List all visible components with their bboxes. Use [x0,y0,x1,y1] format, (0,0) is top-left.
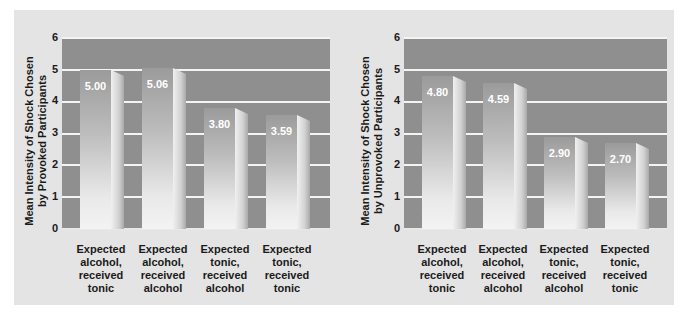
bar: 3.80 [204,108,248,229]
x-label-line: tonic, [256,256,318,269]
x-label-line: Expected [132,243,194,256]
y-tick: 1 [386,190,400,202]
x-label-line: alcohol, [472,256,534,269]
x-label-line: received [256,269,318,282]
x-label-line: received [594,269,656,282]
x-label-line: tonic, [533,256,595,269]
value-label: 2.70 [605,153,636,165]
value-label: 2.90 [544,147,575,159]
value-label: 4.80 [422,86,453,98]
y-axis-label: Mean Intensity of Shock Chosen by Unprov… [359,41,385,241]
gridline [404,37,667,39]
bar-side [235,108,248,229]
y-tick: 3 [44,126,58,138]
bar-side [111,70,124,229]
y-tick: 5 [386,63,400,75]
chart-panel-provoked: Mean Intensity of Shock Chosen by Provok… [14,10,344,305]
y-tick: 2 [386,158,400,170]
y-tick: 3 [386,126,400,138]
bar-side [514,83,527,229]
x-label-line: received [533,269,595,282]
x-label-line: alcohol [194,282,256,295]
x-label-line: Expected [194,243,256,256]
y-tick: 6 [386,31,400,43]
x-label-line: alcohol [472,282,534,295]
y-axis-label-line: Mean Intensity of Shock Chosen [359,41,372,241]
bar: 5.06 [142,68,186,229]
y-tick: 0 [44,222,58,234]
bar: 3.59 [266,115,310,229]
y-tick: 2 [44,158,58,170]
x-label-line: Expected [594,243,656,256]
gridline [62,37,330,39]
chart-panel-unprovoked: Mean Intensity of Shock Chosen by Unprov… [344,10,674,305]
gridline [404,69,667,71]
bar-side [173,68,186,229]
x-category-label: Expected alcohol, received alcohol [132,243,194,295]
y-axis-label-line: by Unprovoked Participants [372,41,385,241]
x-category-label: Expected tonic, received tonic [594,243,656,295]
x-label-line: alcohol, [70,256,132,269]
value-label: 4.59 [483,93,514,105]
bar-side [636,143,649,229]
x-label-line: alcohol [132,282,194,295]
y-tick: 1 [44,190,58,202]
x-label-line: alcohol, [411,256,473,269]
x-label-line: received [194,269,256,282]
x-category-label: Expected alcohol, received tonic [411,243,473,295]
x-label-line: tonic, [194,256,256,269]
y-tick: 0 [386,222,400,234]
x-label-line: received [411,269,473,282]
x-category-label: Expected tonic, received alcohol [194,243,256,295]
value-label: 5.00 [80,80,111,92]
x-label-line: tonic [70,282,132,295]
x-label-line: received [70,269,132,282]
bar: 5.00 [80,70,124,229]
y-tick: 4 [386,94,400,106]
x-label-line: Expected [256,243,318,256]
x-label-line: received [472,269,534,282]
bar-side [575,137,588,229]
bar-side [297,115,310,229]
x-label-line: Expected [70,243,132,256]
x-label-line: tonic, [594,256,656,269]
x-label-line: tonic [411,282,473,295]
bar-side [453,76,466,229]
x-category-label: Expected alcohol, received tonic [70,243,132,295]
y-tick: 6 [44,31,58,43]
value-label: 3.59 [266,125,297,137]
bar-front [80,70,111,229]
x-category-label: Expected tonic, received tonic [256,243,318,295]
y-axis-label-line: Mean Intensity of Shock Chosen [23,41,36,241]
x-label-line: Expected [533,243,595,256]
x-label-line: alcohol, [132,256,194,269]
x-category-label: Expected alcohol, received alcohol [472,243,534,295]
x-category-label: Expected tonic, received alcohol [533,243,595,295]
y-tick: 5 [44,63,58,75]
x-label-line: Expected [411,243,473,256]
x-label-line: received [132,269,194,282]
x-label-line: alcohol [533,282,595,295]
value-label: 3.80 [204,118,235,130]
x-label-line: tonic [594,282,656,295]
value-label: 5.06 [142,78,173,90]
bar: 2.90 [544,137,588,229]
x-label-line: tonic [256,282,318,295]
plot-area: 4.80 4.59 2.90 2.70 [404,38,667,229]
bar: 4.80 [422,76,466,229]
bar: 2.70 [605,143,649,229]
bar: 4.59 [483,83,527,229]
x-label-line: Expected [472,243,534,256]
bar-front [142,68,173,229]
bar-front [422,76,453,229]
y-tick: 4 [44,94,58,106]
plot-area: 5.00 5.06 3.80 3.59 [62,38,330,229]
